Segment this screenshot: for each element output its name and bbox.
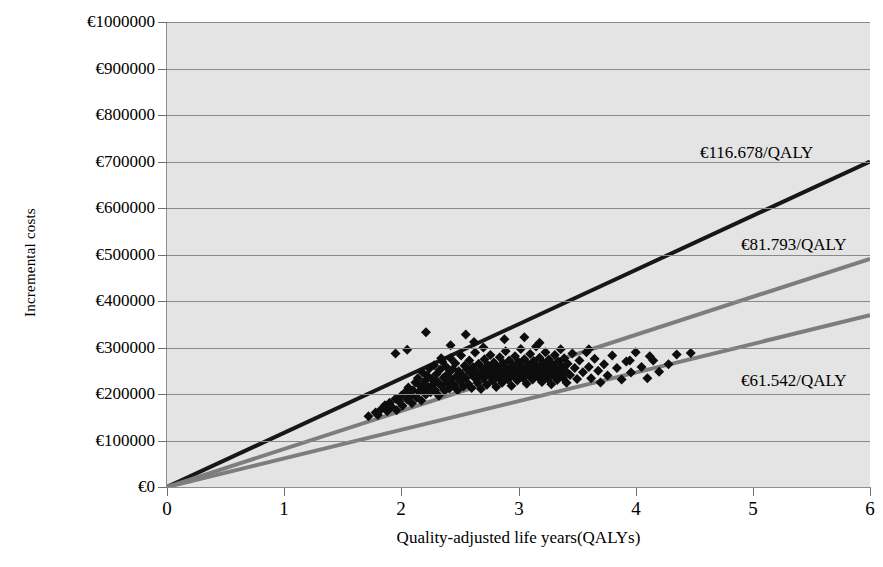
scatter-point bbox=[607, 350, 617, 360]
icer-ceiling-116678 bbox=[167, 161, 870, 487]
gridline-y bbox=[167, 162, 870, 163]
x-tick-mark bbox=[636, 488, 637, 496]
gridline-y bbox=[167, 301, 870, 302]
x-tick-mark bbox=[870, 488, 871, 496]
y-tick-label: €300000 bbox=[96, 339, 156, 356]
scatter-point bbox=[470, 348, 480, 358]
icer-ceiling-81793-label: €81.793/QALY bbox=[741, 236, 847, 254]
gridline-y bbox=[167, 22, 870, 23]
x-tick-label: 2 bbox=[381, 498, 421, 520]
scatter-point bbox=[593, 366, 603, 376]
scatter-point bbox=[672, 349, 682, 359]
scatter-point bbox=[599, 359, 609, 369]
y-tick-mark bbox=[158, 208, 167, 209]
scatter-point bbox=[590, 354, 600, 364]
gridline-y bbox=[167, 255, 870, 256]
gridline-y bbox=[167, 394, 870, 395]
x-tick-mark bbox=[753, 488, 754, 496]
y-tick-mark bbox=[158, 115, 167, 116]
y-tick-label: €500000 bbox=[96, 246, 156, 263]
icer-ceiling-61542 bbox=[167, 315, 870, 487]
gridline-y bbox=[167, 348, 870, 349]
y-tick-label: €100000 bbox=[96, 432, 156, 449]
gridline-y bbox=[167, 208, 870, 209]
scatter-point bbox=[390, 349, 400, 359]
y-tick-mark bbox=[158, 394, 167, 395]
scatter-point bbox=[574, 356, 584, 366]
y-tick-label: €800000 bbox=[96, 106, 156, 123]
scatter-point bbox=[642, 373, 652, 383]
y-tick-mark bbox=[158, 255, 167, 256]
y-tick-mark bbox=[158, 162, 167, 163]
plot-area bbox=[167, 22, 870, 487]
x-tick-label: 0 bbox=[147, 498, 187, 520]
y-tick-mark bbox=[158, 22, 167, 23]
x-tick-label: 5 bbox=[733, 498, 773, 520]
y-tick-label: €400000 bbox=[96, 292, 156, 309]
icer-threshold-lines bbox=[167, 161, 870, 487]
x-tick-mark bbox=[284, 488, 285, 496]
y-tick-label: €700000 bbox=[96, 153, 156, 170]
x-tick-label: 4 bbox=[616, 498, 656, 520]
y-tick-label: €200000 bbox=[96, 385, 156, 402]
scatter-point bbox=[461, 329, 471, 339]
icer-ceiling-61542-label: €61.542/QALY bbox=[741, 372, 847, 390]
y-axis-title: Incremental costs bbox=[22, 138, 39, 388]
scatter-point bbox=[499, 334, 509, 344]
y-tick-label: €900000 bbox=[96, 60, 156, 77]
gridline-y bbox=[167, 69, 870, 70]
scatter-point bbox=[519, 332, 529, 342]
scatter-point bbox=[612, 363, 622, 373]
y-tick-label: €1000000 bbox=[87, 13, 155, 30]
x-axis-title: Quality-adjusted life years(QALYs) bbox=[167, 528, 870, 548]
gridline-y bbox=[167, 441, 870, 442]
scatter-point bbox=[421, 327, 431, 337]
x-tick-label: 1 bbox=[264, 498, 304, 520]
x-tick-mark bbox=[167, 488, 168, 496]
y-tick-label: €600000 bbox=[96, 199, 156, 216]
x-tick-label: 3 bbox=[499, 498, 539, 520]
x-tick-mark bbox=[519, 488, 520, 496]
y-axis-title-wrap: Incremental costs bbox=[0, 0, 30, 567]
y-tick-label: €0 bbox=[138, 478, 155, 495]
y-tick-mark bbox=[158, 301, 167, 302]
y-tick-mark bbox=[158, 487, 167, 488]
y-tick-mark bbox=[158, 441, 167, 442]
cost-effectiveness-plane-figure: €0€100000€200000€300000€400000€500000€60… bbox=[0, 0, 883, 567]
y-tick-mark bbox=[158, 69, 167, 70]
icer-ceiling-116678-label: €116.678/QALY bbox=[700, 144, 813, 162]
scatter-point bbox=[663, 359, 673, 369]
y-tick-mark bbox=[158, 348, 167, 349]
x-tick-label: 6 bbox=[850, 498, 883, 520]
gridline-y bbox=[167, 115, 870, 116]
scatter-point bbox=[402, 345, 412, 355]
x-tick-mark bbox=[401, 488, 402, 496]
